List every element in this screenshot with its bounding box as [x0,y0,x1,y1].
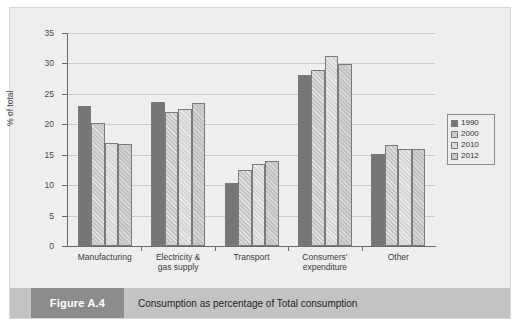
x-axis-tick-mark [215,246,216,251]
figure-number-label: Figure A.4 [50,297,105,309]
bar [105,143,119,246]
bar [118,144,132,246]
legend-swatch-icon [451,153,458,160]
y-axis-tick-label: 15 [18,151,54,160]
bar-group [78,33,132,246]
legend-swatch-icon [451,142,458,149]
caption-bar: Figure A.4 Consumption as percentage of … [10,288,510,318]
legend-item[interactable]: 2012 [451,151,491,161]
legend-label: 2012 [461,152,479,160]
bar [165,112,179,246]
x-axis-category-label: Transport [215,252,288,262]
x-axis-category-label: Manufacturing [68,252,141,262]
y-axis-title: % of total [5,91,15,126]
bar [178,109,192,246]
bar [78,106,92,246]
chart-legend: 1990200020102012 [447,114,495,165]
legend-label: 2010 [461,141,479,149]
bar [338,64,352,246]
y-axis-tick-label: 5 [18,212,54,221]
x-axis-tick-mark [141,246,142,251]
figure-container: % of total 05101520253035 ManufacturingE… [9,7,511,319]
x-axis-category-label: Other [362,252,435,262]
legend-swatch-icon [451,131,458,138]
bar [385,145,399,246]
legend-swatch-icon [451,120,458,127]
y-axis-tick-label: 30 [18,59,54,68]
bar [412,149,426,246]
x-axis-tick-mark [362,246,363,251]
bar [91,123,105,246]
bar [398,149,412,246]
bar [225,183,239,246]
y-axis-tick-label: 35 [18,29,54,38]
bar [371,154,385,247]
legend-label: 1990 [461,119,479,127]
figure-caption-text: Consumption as percentage of Total consu… [138,288,357,318]
bar [151,102,165,246]
y-axis-tick-label: 20 [18,120,54,129]
y-axis-tick-label: 25 [18,90,54,99]
figure-number-tag: Figure A.4 [31,288,124,318]
x-axis-tick-mark [288,246,289,251]
legend-item[interactable]: 2000 [451,129,491,139]
bar-group [298,33,352,246]
bar [298,75,312,246]
bar [325,56,339,246]
x-axis-category-label: Electricity &gas supply [141,252,214,272]
legend-label: 2000 [461,130,479,138]
bar-group [225,33,279,246]
x-axis-category-label: Consumers'expenditure [288,252,361,272]
bar-group [371,33,425,246]
y-axis-tick-label: 0 [18,242,54,251]
y-axis-tick-label: 10 [18,181,54,190]
plot-area [68,33,435,246]
x-axis-line [67,246,436,247]
bar [311,70,325,246]
bar-group [151,33,205,246]
bar [192,103,206,246]
bar [238,170,252,246]
bar [252,164,266,246]
legend-item[interactable]: 1990 [451,118,491,128]
chart-plot-panel: % of total 05101520253035 ManufacturingE… [10,8,512,278]
bar [265,161,279,246]
legend-item[interactable]: 2010 [451,140,491,150]
